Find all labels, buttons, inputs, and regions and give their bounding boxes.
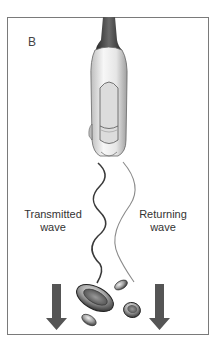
transmitted-label-line2: wave bbox=[18, 221, 88, 234]
transmitted-label-line1: Transmitted bbox=[18, 208, 88, 221]
returning-label-line1: Returning bbox=[130, 208, 196, 221]
returning-wave-label: Returning wave bbox=[130, 208, 196, 234]
panel-letter: B bbox=[28, 36, 36, 49]
transmitted-wave-label: Transmitted wave bbox=[18, 208, 88, 234]
doppler-diagram bbox=[0, 0, 218, 351]
returning-label-line2: wave bbox=[130, 221, 196, 234]
probe-grip bbox=[100, 82, 118, 144]
